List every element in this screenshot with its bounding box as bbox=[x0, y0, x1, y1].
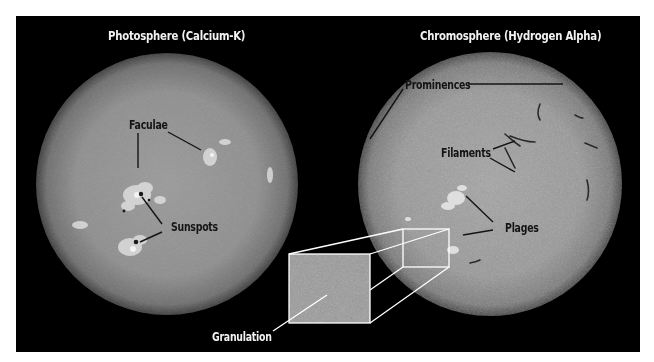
plages-label: Plages bbox=[505, 221, 539, 235]
sunspots-label: Sunspots bbox=[171, 220, 218, 234]
solar-comparison-figure: Photosphere (Calcium-K) Chromosphere (Hy… bbox=[0, 0, 654, 362]
photosphere-sun-disk bbox=[36, 53, 298, 315]
chromosphere-title: Chromosphere (Hydrogen Alpha) bbox=[420, 29, 601, 43]
photosphere-title: Photosphere (Calcium-K) bbox=[108, 29, 245, 43]
filaments-label: Filaments bbox=[441, 146, 491, 160]
solar-images-artwork bbox=[0, 0, 654, 362]
granulation-label: Granulation bbox=[212, 330, 272, 344]
prominences-label: Prominences bbox=[405, 78, 470, 92]
chromosphere-sun-disk bbox=[358, 52, 622, 316]
faculae-label: Faculae bbox=[129, 118, 168, 132]
